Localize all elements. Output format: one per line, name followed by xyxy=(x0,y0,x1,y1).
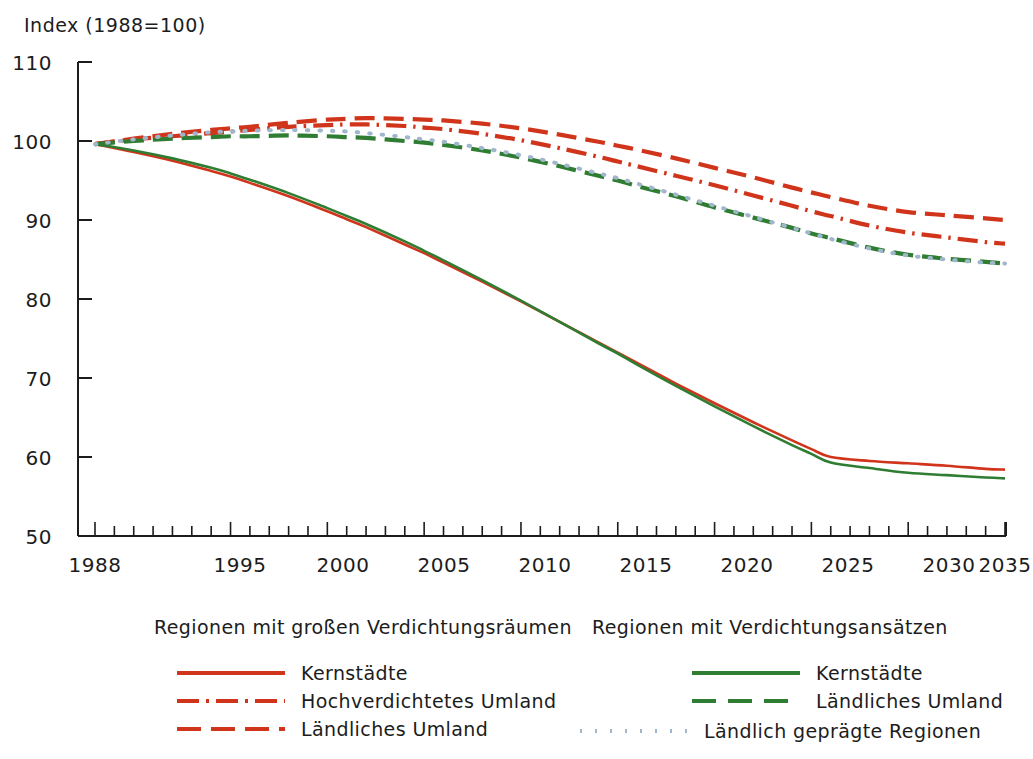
legend-swatch-solid-red xyxy=(175,667,287,679)
chart-figure: Index (1988=100) 110 100 90 80 70 60 50 … xyxy=(0,0,1033,759)
legend-swatch-dashdot-red xyxy=(175,695,287,707)
legend-heading-right: Regionen mit Verdichtungsansätzen xyxy=(592,616,948,638)
series-line-0 xyxy=(95,144,1005,469)
legend-label-extra-0: Ländlich geprägte Regionen xyxy=(704,720,981,742)
series-line-1 xyxy=(95,124,1005,243)
legend-swatch-dashed-red xyxy=(175,723,287,735)
x-axis-ticks xyxy=(95,522,1005,536)
y-axis-ticks xyxy=(78,62,92,536)
legend-label-left-0: Kernstädte xyxy=(301,662,408,684)
legend-label-left-1: Hochverdichtetes Umland xyxy=(301,690,557,712)
series-line-3 xyxy=(95,144,1005,478)
legend-label-right-1: Ländliches Umland xyxy=(816,690,1003,712)
legend-swatch-dashed-green xyxy=(690,695,802,707)
legend-swatch-solid-green xyxy=(690,667,802,679)
series-line-4 xyxy=(95,135,1005,263)
legend-item-left-laendliches-umland[interactable]: Ländliches Umland xyxy=(175,718,488,740)
legend-heading-left: Regionen mit großen Verdichtungsräumen xyxy=(154,616,572,638)
data-series-layer xyxy=(95,118,1005,478)
legend-item-right-laendliches-umland[interactable]: Ländliches Umland xyxy=(690,690,1003,712)
plot-canvas xyxy=(0,0,1033,600)
legend-item-left-hochverdichtetes-umland[interactable]: Hochverdichtetes Umland xyxy=(175,690,557,712)
legend-label-left-2: Ländliches Umland xyxy=(301,718,488,740)
legend-item-laendlich-gepraegte-regionen[interactable]: Ländlich geprägte Regionen xyxy=(578,720,981,742)
series-line-5 xyxy=(95,130,1005,264)
legend-item-right-kernstaedte[interactable]: Kernstädte xyxy=(690,662,923,684)
legend-swatch-dotted-blue xyxy=(578,725,690,737)
legend-item-left-kernstaedte[interactable]: Kernstädte xyxy=(175,662,408,684)
legend-label-right-0: Kernstädte xyxy=(816,662,923,684)
